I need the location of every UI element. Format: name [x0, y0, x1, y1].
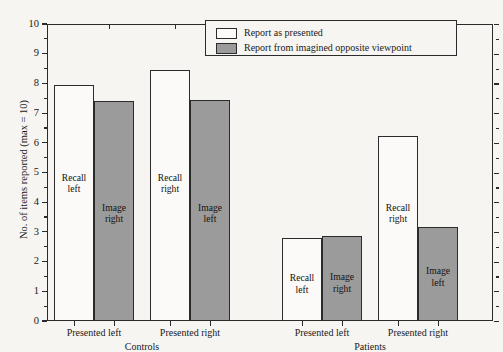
- y-axis-tick-label: 7: [34, 107, 39, 118]
- bar-annotation-line: Image: [191, 202, 229, 213]
- bar-annotation-line: right: [379, 213, 417, 224]
- x-axis-group-label: Patients: [354, 341, 386, 352]
- bar-annotation-line: Recall: [55, 172, 93, 183]
- legend-swatch-filled-icon: [216, 43, 237, 54]
- y-axis-tick-label: 4: [34, 196, 39, 207]
- tick-mark: [496, 39, 499, 40]
- tick-mark: [398, 321, 399, 326]
- bar: Recallleft: [282, 238, 322, 321]
- x-axis-condition-label: Presented left: [67, 327, 122, 338]
- y-axis-tick-label: 6: [34, 137, 39, 148]
- tick-mark: [494, 291, 499, 292]
- bar: Recallright: [378, 136, 418, 321]
- tick-mark: [114, 321, 115, 326]
- tick-mark: [302, 321, 303, 326]
- legend-swatch-open-icon: [216, 28, 237, 39]
- tick-mark: [494, 232, 499, 233]
- bar-annotation: Imageright: [323, 271, 361, 294]
- x-axis-condition-label: Presented right: [388, 327, 448, 338]
- tick-mark: [494, 83, 499, 84]
- y-axis-tick-label: 10: [29, 18, 40, 29]
- bar-annotation: Imageleft: [191, 202, 229, 225]
- bar-annotation-line: Recall: [283, 272, 321, 283]
- tick-mark: [494, 262, 499, 263]
- bar-annotation-line: Image: [419, 265, 457, 276]
- bar: Imageright: [322, 236, 362, 321]
- bar: Imageleft: [418, 227, 458, 321]
- y-axis-tick-label: 8: [34, 78, 39, 89]
- tick-mark: [494, 113, 499, 114]
- bar-annotation-line: Recall: [151, 172, 189, 183]
- x-axis-group-label: Controls: [125, 341, 159, 352]
- right-axis-ticks: [493, 24, 499, 321]
- bar-annotation-line: left: [55, 183, 93, 194]
- y-axis-tick-label: 0: [34, 315, 39, 326]
- tick-mark: [342, 321, 343, 326]
- bar-annotation-line: left: [283, 284, 321, 295]
- bar-annotation-line: right: [323, 283, 361, 294]
- bar-annotation: Recallright: [379, 202, 417, 225]
- tick-mark: [494, 173, 499, 174]
- bar-annotation-line: Image: [95, 202, 133, 213]
- bar-annotation: Recallleft: [55, 172, 93, 195]
- tick-mark: [496, 69, 499, 70]
- tick-mark: [494, 54, 499, 55]
- bar-chart: 012345678910 No. of items reported (max …: [0, 0, 503, 352]
- legend-item: Report as presented: [212, 26, 450, 40]
- y-axis-tick-label: 3: [34, 226, 39, 237]
- x-axis-condition-label: Presented right: [160, 327, 220, 338]
- bar-annotation-line: left: [191, 213, 229, 224]
- legend: Report as presented Report from imagined…: [205, 20, 457, 56]
- tick-mark: [494, 24, 499, 25]
- bar: Recallleft: [54, 85, 94, 321]
- bar-annotation-line: left: [419, 277, 457, 288]
- legend-item-label: Report from imagined opposite viewpoint: [244, 43, 412, 53]
- bar-annotation: Recallleft: [283, 272, 321, 295]
- bar-annotation-line: Image: [323, 271, 361, 282]
- x-axis-condition-label: Presented left: [295, 327, 350, 338]
- tick-mark: [496, 187, 499, 188]
- tick-mark: [496, 217, 499, 218]
- legend-item-label: Report as presented: [244, 28, 323, 38]
- y-axis-tick-label: 1: [34, 286, 39, 297]
- bar-annotation-line: right: [151, 183, 189, 194]
- tick-mark: [210, 321, 211, 326]
- tick-mark: [496, 128, 499, 129]
- tick-mark: [494, 202, 499, 203]
- bar-annotation: Recallright: [151, 172, 189, 195]
- tick-mark: [74, 321, 75, 326]
- tick-mark: [170, 321, 171, 326]
- tick-mark: [496, 306, 499, 307]
- bar-annotation: Imageright: [95, 202, 133, 225]
- bar-annotation-line: right: [95, 213, 133, 224]
- y-axis-tick-label: 9: [34, 48, 39, 59]
- tick-mark: [494, 321, 499, 322]
- bar: Imageright: [94, 101, 134, 321]
- bar: Imageleft: [190, 100, 230, 321]
- bar-annotation-line: Recall: [379, 202, 417, 213]
- tick-mark: [496, 276, 499, 277]
- tick-mark: [438, 321, 439, 326]
- y-axis-title: No. of items reported (max = 10): [18, 55, 29, 285]
- bars-layer: RecallleftImagerightRecallrightImageleft…: [47, 24, 493, 321]
- tick-mark: [496, 158, 499, 159]
- y-axis: 012345678910 No. of items reported (max …: [0, 24, 47, 321]
- y-axis-tick-label: 2: [34, 256, 39, 267]
- y-axis-tick-label: 5: [34, 167, 39, 178]
- legend-item: Report from imagined opposite viewpoint: [212, 41, 450, 55]
- tick-mark: [496, 98, 499, 99]
- bar: Recallright: [150, 70, 190, 321]
- tick-mark: [496, 247, 499, 248]
- tick-mark: [494, 143, 499, 144]
- bar-annotation: Imageleft: [419, 265, 457, 288]
